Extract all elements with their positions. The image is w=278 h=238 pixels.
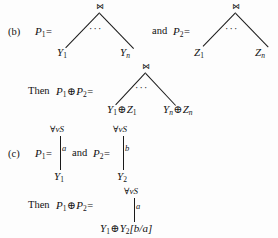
leaf-subscript: 1: [60, 175, 64, 184]
oplus-sign: ⊕: [173, 104, 183, 115]
equals-sign: =: [45, 148, 52, 159]
leaf-subscript: 2: [123, 175, 127, 184]
quant-set: S: [133, 186, 138, 196]
quant-set: S: [122, 124, 127, 134]
leaf-subscript: n: [126, 51, 130, 60]
quant-set: S: [59, 124, 64, 134]
tree-c-sum-edge-label: a: [136, 201, 140, 211]
leaf-subscript-b: 1: [133, 108, 137, 117]
leaf-subscript: 1: [200, 51, 204, 60]
oplus-sign: ⊕: [66, 200, 76, 211]
section-b-then-prefix: Then: [28, 85, 50, 96]
tree-b-left-edge-right: [99, 13, 134, 49]
tree-c-left-edge: [60, 136, 61, 170]
equals-sign: =: [87, 200, 94, 211]
tree-b-left-root-icon: ⋈: [96, 3, 104, 11]
leaf-subscript: n: [261, 51, 265, 60]
section-c-then-prefix: Then: [28, 199, 50, 210]
tree-b-sum-root-icon: ⋈: [142, 63, 150, 71]
tree-b-left-ellipsis: ···: [89, 23, 103, 34]
tree-c-right-edge: [123, 136, 124, 170]
section-b-rhs-expression: P2=: [173, 25, 190, 39]
p1-symbol: P: [35, 147, 42, 159]
tree-c-left-root-quantifier: ∀vS: [50, 124, 64, 134]
leaf-subscript-b: n: [189, 108, 193, 117]
tree-b-right-leaf-right: Zn: [255, 46, 265, 60]
equals-sign: =: [183, 26, 190, 37]
p2-symbol: P: [93, 147, 100, 159]
tree-b-right-leaf-left: Z1: [194, 46, 204, 60]
tree-b-left-leaf-left: Y1: [57, 46, 67, 60]
tree-c-sum-edge: [134, 198, 135, 222]
tree-b-sum-leaf-right: Yn⊕Zn: [163, 103, 193, 117]
section-b-marker: (b): [8, 26, 20, 37]
oplus-sign: ⊕: [117, 104, 127, 115]
section-c-lhs-expression: P1=: [35, 147, 52, 161]
tree-c-left-edge-label: a: [62, 143, 66, 153]
tree-b-sum-edge-right: [145, 73, 176, 106]
p1-symbol: P: [35, 25, 42, 37]
leaf-substitution: [b/a]: [130, 222, 153, 234]
section-b-sum-expression: P1⊕P2=: [56, 85, 94, 99]
tree-b-right-edge-right: [235, 13, 268, 48]
p1-symbol: P: [56, 85, 63, 97]
tree-b-left-leaf-right: Yn: [120, 46, 130, 60]
section-c-marker: (c): [8, 148, 20, 159]
oplus-sign: ⊕: [110, 223, 120, 234]
tree-b-sum-leaf-left: Y1⊕Z1: [107, 103, 137, 117]
tree-c-sum-root-quantifier: ∀vS: [124, 186, 138, 196]
equals-sign: =: [45, 26, 52, 37]
section-c-sum-expression: P1⊕P2=: [56, 199, 94, 213]
tree-b-right-ellipsis: ···: [225, 23, 239, 34]
section-c-rhs-expression: P2=: [93, 147, 110, 161]
leaf-subscript: 1: [63, 51, 67, 60]
p2-symbol: P: [173, 25, 180, 37]
oplus-sign: ⊕: [66, 86, 76, 97]
section-b-lhs-expression: P1=: [35, 25, 52, 39]
section-b-conjunction: and: [152, 25, 167, 36]
tree-b-sum-ellipsis: ···: [135, 82, 149, 93]
tree-c-right-leaf: Y2: [117, 170, 127, 184]
equals-sign: =: [87, 86, 94, 97]
tree-c-left-leaf: Y1: [54, 170, 64, 184]
figure-canvas: (b) P1= ⋈ ··· Y1 Yn and P2= ⋈ ··· Z1 Zn …: [0, 0, 278, 238]
tree-c-right-root-quantifier: ∀vS: [113, 124, 127, 134]
p1-symbol: P: [56, 199, 63, 211]
section-c-conjunction: and: [72, 147, 87, 158]
tree-c-right-edge-label: b: [125, 143, 129, 153]
equals-sign: =: [103, 148, 110, 159]
tree-b-right-root-icon: ⋈: [232, 3, 240, 11]
tree-c-sum-leaf: Y1⊕Y2[b/a]: [100, 222, 152, 236]
